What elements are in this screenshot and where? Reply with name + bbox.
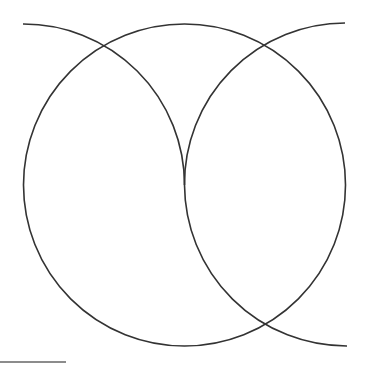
geometric-diagram xyxy=(0,0,368,368)
